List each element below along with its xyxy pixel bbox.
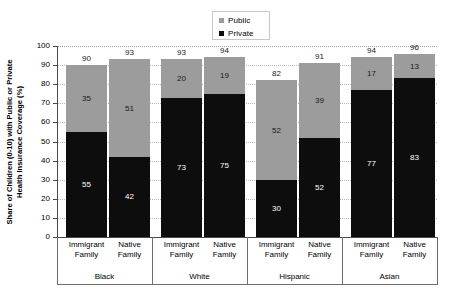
- bars-layer: 5535904251937320937519943052825239917717…: [57, 46, 437, 237]
- bar-segment-public[interactable]: 51: [109, 59, 150, 156]
- bar-value-private: 83: [410, 153, 419, 162]
- y-tick-label-90: 90: [24, 61, 50, 69]
- y-tick-label-100: 100: [24, 42, 50, 50]
- chart-container: Public Private Share of Children (0-10) …: [0, 0, 449, 297]
- y-tick-label-30: 30: [24, 176, 50, 184]
- bar-value-public: 17: [367, 69, 376, 78]
- x-group-separator: [437, 237, 438, 285]
- bar-total-label: 93: [103, 48, 156, 57]
- bar-hispanic-native[interactable]: 5239: [299, 63, 340, 237]
- x-label-asian-native: Native Family: [386, 240, 443, 259]
- bar-value-private: 52: [315, 183, 324, 192]
- y-tick-label-60: 60: [24, 118, 50, 126]
- y-axis-title-line1: Share of Children (0-10) with Public or …: [5, 59, 14, 224]
- y-axis-title-line2: Health Insurance Coverage (%): [15, 86, 24, 198]
- bar-segment-public[interactable]: 17: [351, 57, 392, 89]
- x-group-label-hispanic: Hispanic: [247, 272, 342, 281]
- bar-value-private: 55: [82, 180, 91, 189]
- chart-legend: Public Private: [212, 11, 270, 40]
- legend-label-private: Private: [228, 29, 254, 38]
- y-tick-label-20: 20: [24, 195, 50, 203]
- bar-value-public: 13: [410, 62, 419, 71]
- x-group-separator: [247, 237, 248, 285]
- y-tick-label-40: 40: [24, 157, 50, 165]
- x-label-black-native: Native Family: [101, 240, 158, 259]
- x-group-label-black: Black: [57, 272, 152, 281]
- bar-segment-private[interactable]: 83: [394, 78, 435, 237]
- bar-value-private: 73: [177, 163, 186, 172]
- x-label-hispanic-native: Native Family: [291, 240, 348, 259]
- bar-value-public: 20: [177, 74, 186, 83]
- bar-value-public: 52: [272, 126, 281, 135]
- x-group-separator: [342, 237, 343, 285]
- y-tick-label-50: 50: [24, 138, 50, 146]
- bar-asian-immigrant[interactable]: 7717: [351, 57, 392, 237]
- bar-segment-private[interactable]: 77: [351, 90, 392, 237]
- bar-segment-private[interactable]: 55: [66, 132, 107, 237]
- bar-segment-public[interactable]: 13: [394, 54, 435, 79]
- y-tick-label-70: 70: [24, 99, 50, 107]
- bar-value-public: 19: [220, 71, 229, 80]
- bar-hispanic-immigrant[interactable]: 3052: [256, 80, 297, 237]
- x-group-label-white: White: [152, 272, 247, 281]
- x-group-separator: [152, 237, 153, 285]
- bar-value-public: 35: [82, 94, 91, 103]
- bar-segment-public[interactable]: 19: [204, 57, 245, 93]
- legend-swatch-private-icon: [219, 31, 224, 36]
- x-axis-labels: Immigrant FamilyNative FamilyImmigrant F…: [57, 237, 438, 297]
- bar-white-immigrant[interactable]: 7320: [161, 59, 202, 237]
- x-label-white-native: Native Family: [196, 240, 253, 259]
- bar-black-immigrant[interactable]: 5535: [66, 65, 107, 237]
- x-group-label-asian: Asian: [342, 272, 437, 281]
- bar-segment-public[interactable]: 35: [66, 65, 107, 132]
- bar-black-native[interactable]: 4251: [109, 59, 150, 237]
- bar-asian-native[interactable]: 8313: [394, 54, 435, 237]
- bar-white-native[interactable]: 7519: [204, 57, 245, 237]
- bar-total-label: 82: [250, 69, 303, 78]
- x-group-separator: [57, 237, 58, 285]
- bar-value-private: 30: [272, 204, 281, 213]
- y-axis-title-text: Share of Children (0-10) with Public or …: [5, 44, 25, 240]
- bar-segment-private[interactable]: 52: [299, 138, 340, 237]
- legend-swatch-public-icon: [219, 18, 224, 23]
- legend-item-public: Public: [219, 15, 269, 26]
- legend-label-public: Public: [228, 16, 250, 25]
- bar-value-private: 77: [367, 159, 376, 168]
- legend-item-private: Private: [219, 28, 269, 39]
- bar-value-private: 75: [220, 161, 229, 170]
- bar-segment-public[interactable]: 39: [299, 63, 340, 137]
- bar-segment-private[interactable]: 75: [204, 94, 245, 237]
- bar-segment-public[interactable]: 52: [256, 80, 297, 179]
- bar-total-label: 94: [198, 46, 251, 55]
- y-tick-label-10: 10: [24, 214, 50, 222]
- bar-value-public: 51: [125, 104, 134, 113]
- bar-segment-public[interactable]: 20: [161, 59, 202, 97]
- bar-value-public: 39: [315, 96, 324, 105]
- bar-segment-private[interactable]: 73: [161, 98, 202, 237]
- y-tick-label-0: 0: [24, 233, 50, 241]
- bar-value-private: 42: [125, 192, 134, 201]
- bar-total-label: 96: [388, 43, 441, 52]
- bar-total-label: 91: [293, 52, 346, 61]
- bar-segment-private[interactable]: 30: [256, 180, 297, 237]
- bar-segment-private[interactable]: 42: [109, 157, 150, 237]
- y-tick-label-80: 80: [24, 80, 50, 88]
